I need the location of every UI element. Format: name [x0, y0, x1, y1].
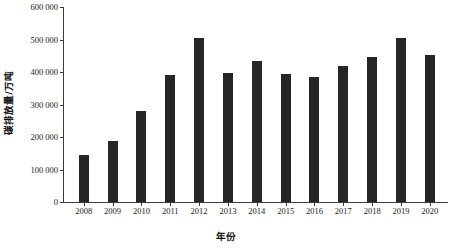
- y-tick-mark: [60, 7, 64, 8]
- y-axis-tick-labels: 0100 000200 000300 000400 000500 000600 …: [16, 0, 61, 252]
- x-axis-title: 年份: [0, 229, 451, 243]
- y-tick-mark: [60, 40, 64, 41]
- bar: [136, 111, 146, 202]
- y-tick-mark: [60, 105, 64, 106]
- bar: [194, 38, 204, 202]
- y-tick-mark: [60, 170, 64, 171]
- x-axis-tick-labels: 2008200920102011201220132014201520162017…: [63, 206, 448, 222]
- y-tick-label: 400 000: [14, 68, 58, 77]
- x-axis-title-label: 年份: [216, 231, 236, 242]
- x-tick-label: 2020: [410, 206, 450, 216]
- bar: [338, 66, 348, 203]
- y-tick-label: 100 000: [14, 166, 58, 175]
- bar: [223, 73, 233, 202]
- x-axis-spine: [63, 202, 448, 203]
- bar-chart-figure: 碳排放量/万吨 0100 000200 000300 000400 000500…: [0, 0, 451, 252]
- bar: [79, 155, 89, 202]
- y-tick-mark: [60, 72, 64, 73]
- y-tick-label: 0: [14, 198, 58, 207]
- bar: [108, 141, 118, 202]
- plot-area: [63, 7, 448, 203]
- bar: [367, 57, 377, 202]
- bar: [425, 55, 435, 202]
- y-tick-mark: [60, 202, 64, 203]
- y-tick-label: 200 000: [14, 133, 58, 142]
- y-axis-title-label: 碳排放量/万吨: [1, 71, 15, 134]
- y-tick-label: 500 000: [14, 36, 58, 45]
- bar: [396, 38, 406, 202]
- y-tick-label: 600 000: [14, 3, 58, 12]
- bar: [309, 77, 319, 202]
- y-tick-mark: [60, 137, 64, 138]
- bar: [165, 75, 175, 202]
- bar: [281, 74, 291, 202]
- bar: [252, 61, 262, 202]
- y-tick-label: 300 000: [14, 101, 58, 110]
